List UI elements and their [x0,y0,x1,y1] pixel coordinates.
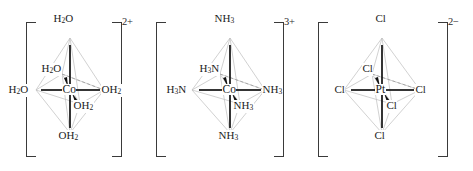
central-atom-label: Co [62,84,76,95]
ligand-label-top: NH3 [214,13,235,26]
ligand-label-top: H2O [53,13,74,26]
ligand-label-back: H2O [41,63,62,76]
ligand-label-top: Cl [375,13,386,26]
ligand-label-right: Cl [415,84,426,97]
ligand-label-left: H2O [8,84,29,97]
central-atom-label: Co [222,84,236,95]
ligand-label-back: H3N [199,63,220,76]
ligand-label-left: H3N [166,84,187,97]
ligand-label-right: OH2 [101,84,122,97]
complex-hexaamminecobalt: 3+ NH3 H3N H3N Co [152,0,312,171]
ligand-label-front: Cl [386,100,397,113]
ligand-label-back: Cl [362,63,373,76]
ligand-label-front: NH3 [233,100,254,113]
ligand-label-bottom: OH2 [58,130,79,143]
ligand-label-front: OH2 [73,100,94,113]
complex-hexachloroplatinate: 2− Cl Cl Cl Pt [310,0,473,171]
ligand-label-bottom: Cl [374,130,385,143]
complex-hexaaquacobalt: 2+ [0,0,155,171]
ligand-label-left: Cl [334,84,345,97]
diagram-canvas: 2+ [0,0,473,171]
ligand-label-right: NH3 [262,84,283,97]
ligand-label-bottom: NH3 [218,130,239,143]
central-atom-label: Pt [375,84,386,95]
